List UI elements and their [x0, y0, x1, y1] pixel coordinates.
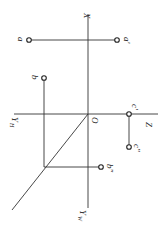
projection-diagram: X Z Y H Y W O a a' b b" c' c" — [0, 0, 161, 239]
label-c-dprime: c" — [132, 144, 142, 152]
svg-text:W: W — [77, 216, 83, 222]
point-a-prime — [115, 38, 120, 43]
45-degree-diagonal — [12, 114, 88, 210]
label-b-dprime: b" — [105, 164, 115, 173]
origin-label: O — [90, 117, 100, 124]
point-c-dprime — [127, 145, 132, 150]
axis-label-x: X — [82, 12, 92, 19]
axis-label-yh: Y H — [9, 117, 20, 128]
point-b — [42, 76, 47, 81]
svg-text:H: H — [9, 122, 15, 128]
label-c-prime: c' — [130, 104, 140, 111]
axis-label-yw: Y W — [77, 210, 88, 222]
point-b-dprime — [99, 165, 104, 170]
label-a-prime: a' — [122, 37, 132, 45]
label-b: b — [30, 75, 40, 80]
point-a — [27, 38, 32, 43]
label-a: a — [16, 37, 26, 42]
point-c-prime — [127, 112, 132, 117]
axis-label-z: Z — [144, 122, 154, 128]
